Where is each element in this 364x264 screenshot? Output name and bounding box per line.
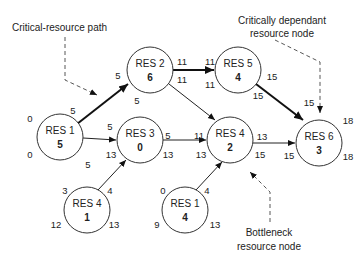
node-circle bbox=[162, 187, 208, 233]
node-value: 6 bbox=[147, 72, 153, 83]
node-value: 4 bbox=[182, 212, 188, 223]
edge-res1-res3 bbox=[83, 138, 116, 140]
node-circle bbox=[37, 114, 83, 160]
node-tl: 11 bbox=[205, 56, 215, 67]
node-value: 5 bbox=[57, 139, 63, 150]
node-tr: 5 bbox=[165, 130, 170, 141]
node-circle bbox=[207, 117, 253, 163]
node-value: 2 bbox=[227, 142, 233, 153]
node-circle bbox=[64, 187, 110, 233]
edge-res1-res2-critical bbox=[77, 84, 128, 124]
node-br: 18 bbox=[343, 151, 354, 162]
annotation-critically-dependent-line1: Critically dependant bbox=[238, 15, 326, 26]
node-bl: 9 bbox=[154, 219, 159, 230]
node-name: RES 2 bbox=[136, 58, 165, 69]
node-br: 13 bbox=[109, 219, 120, 230]
node-tl: 5 bbox=[115, 70, 120, 81]
node-tl: 15 bbox=[304, 97, 315, 108]
annotation-critically-dependent-line2: resource node bbox=[250, 28, 314, 39]
node-tl: 0 bbox=[160, 185, 165, 196]
node-name: RES 1 bbox=[171, 198, 200, 209]
node-name: RES 3 bbox=[126, 128, 155, 139]
node-br: 15 bbox=[253, 90, 264, 101]
node-circle bbox=[296, 120, 342, 166]
node-circle bbox=[127, 47, 173, 93]
node-res1: RES 1 5 0 5 0 5 bbox=[27, 105, 90, 170]
annotation-bottleneck-line1: Bottleneck bbox=[246, 227, 294, 238]
annotation-bottleneck-line2: resource node bbox=[237, 241, 301, 252]
node-circle bbox=[117, 117, 163, 163]
node-tr: 15 bbox=[267, 71, 278, 82]
node-value: 4 bbox=[235, 72, 241, 83]
node-res1-input: RES 1 4 0 4 9 13 bbox=[154, 185, 220, 233]
node-bl: 12 bbox=[51, 219, 62, 230]
node-name: RES 1 bbox=[46, 125, 75, 136]
bottleneck-pointer bbox=[250, 172, 270, 222]
node-value: 3 bbox=[316, 145, 322, 156]
node-tl: 5 bbox=[107, 121, 112, 132]
node-res6-critically-dependent: RES 6 3 15 18 15 18 bbox=[284, 97, 354, 166]
node-br: 11 bbox=[177, 74, 187, 85]
annotation-critical-resource-path: Critical-resource path bbox=[12, 22, 107, 33]
resource-network-diagram: RES 1 5 0 5 0 5 RES 2 6 5 11 5 11 RES 3 … bbox=[0, 0, 364, 264]
node-bl: 5 bbox=[134, 95, 139, 106]
node-tr: 13 bbox=[257, 131, 268, 142]
node-tl: 3 bbox=[62, 185, 67, 196]
node-value: 1 bbox=[84, 212, 90, 223]
node-tl: 0 bbox=[27, 113, 32, 124]
node-circle bbox=[215, 47, 261, 93]
node-tr: 5 bbox=[70, 105, 75, 116]
node-res2: RES 2 6 5 11 5 11 bbox=[115, 47, 187, 106]
node-tr: 18 bbox=[343, 115, 354, 126]
node-bl: 0 bbox=[27, 149, 32, 160]
node-name: RES 4 bbox=[73, 198, 102, 209]
node-tr: 11 bbox=[177, 56, 187, 67]
node-name: RES 4 bbox=[216, 128, 245, 139]
node-br: 5 bbox=[85, 159, 90, 170]
node-name: RES 6 bbox=[305, 131, 334, 142]
node-name: RES 5 bbox=[224, 58, 253, 69]
node-br: 15 bbox=[255, 149, 266, 160]
node-bl: 13 bbox=[196, 149, 207, 160]
node-tl: 11 bbox=[194, 130, 204, 141]
node-tr: 4 bbox=[204, 185, 209, 196]
node-res4-input: RES 4 1 3 4 12 13 bbox=[51, 185, 120, 233]
critical-path-pointer bbox=[65, 37, 97, 95]
node-tr: 4 bbox=[107, 185, 112, 196]
node-value: 0 bbox=[137, 142, 143, 153]
node-br: 13 bbox=[210, 219, 221, 230]
node-bl: 15 bbox=[284, 150, 295, 161]
node-bl: 11 bbox=[205, 79, 215, 90]
node-br: 13 bbox=[163, 149, 174, 160]
node-bl: 13 bbox=[106, 149, 117, 160]
